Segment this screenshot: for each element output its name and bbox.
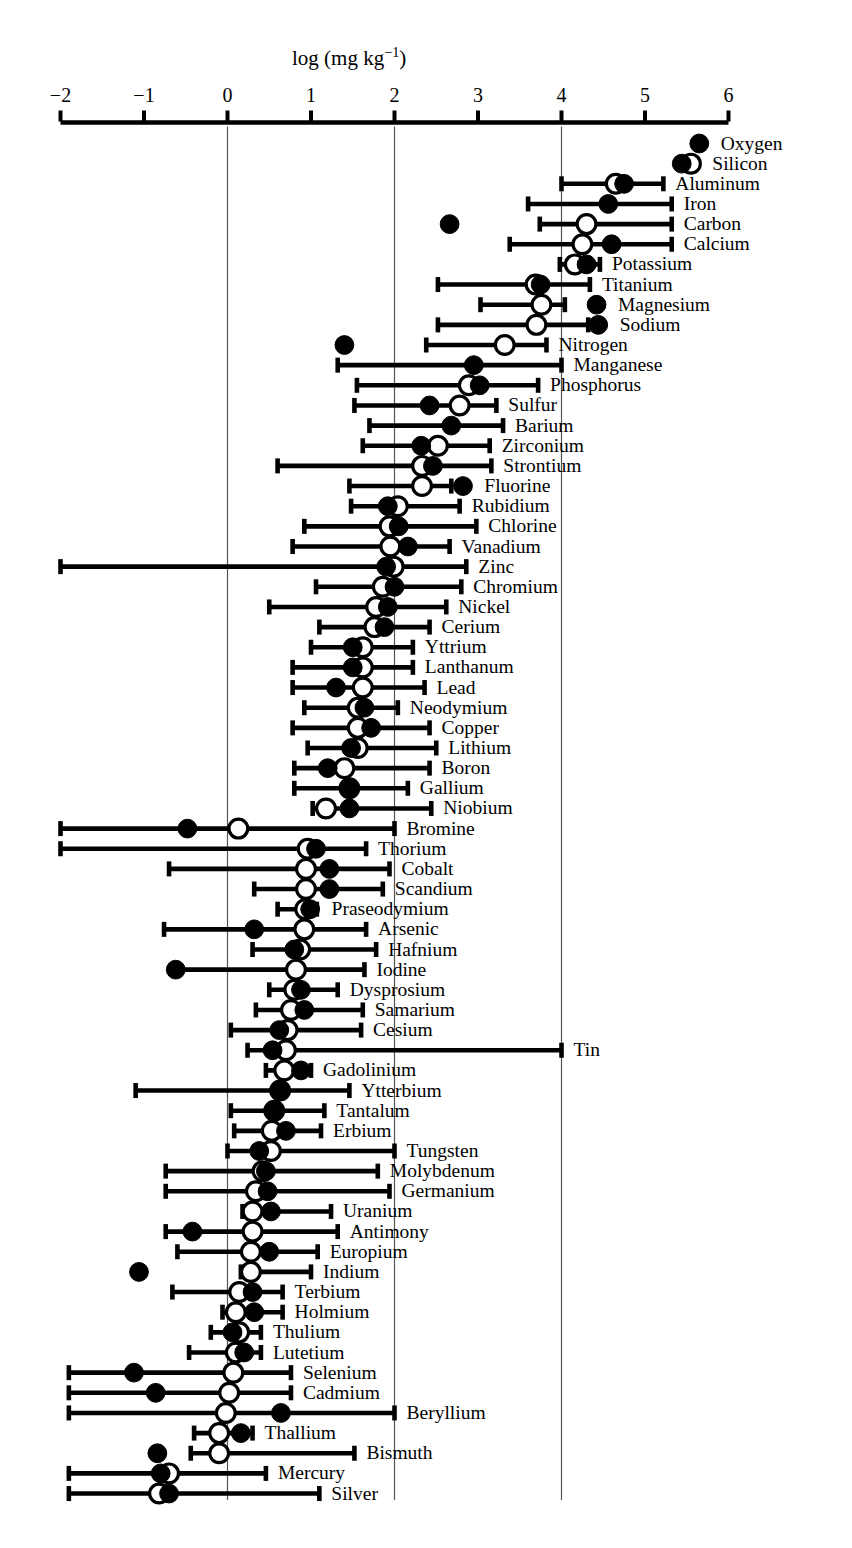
chart-canvas: log (mg kg−1) −2−10123456 OxygenSiliconA… [0,0,852,1548]
row-label-molybdenum: Molybdenum [390,1161,495,1181]
row-label-thulium: Thulium [273,1322,340,1342]
row-label-lead: Lead [437,678,476,698]
data-row [266,1061,311,1080]
data-row [278,900,320,919]
data-row [510,235,672,254]
data-row [438,275,590,294]
data-row [335,336,546,355]
row-label-boron: Boron [442,758,491,778]
data-row [294,759,429,778]
row-label-phosphorus: Phosphorus [550,375,641,395]
data-row [69,1484,320,1503]
row-label-uranium: Uranium [343,1201,412,1221]
data-row [338,356,562,375]
row-label-gadolinium: Gadolinium [323,1060,416,1080]
x-tick-label-6: 6 [709,84,749,107]
data-row [194,1424,252,1443]
data-row [253,940,377,959]
data-row [313,799,432,818]
row-label-oxygen: Oxygen [721,134,783,154]
data-row [231,1021,361,1040]
x-tick-label-minus1: −1 [124,84,164,107]
data-row [319,618,429,637]
data-row [357,376,538,395]
row-label-carbon: Carbon [684,214,741,234]
row-label-chlorine: Chlorine [488,516,556,536]
row-label-fluorine: Fluorine [484,476,550,496]
data-row [304,517,476,536]
row-label-barium: Barium [515,416,574,436]
row-label-rubidium: Rubidium [472,496,550,516]
data-row [243,1202,332,1221]
row-label-manganese: Manganese [574,355,663,375]
row-label-vanadium: Vanadium [462,537,541,557]
row-label-calcium: Calcium [684,234,750,254]
row-label-cerium: Cerium [442,617,501,637]
x-tick-label-1: 1 [291,84,331,107]
data-row [562,174,664,193]
row-label-samarium: Samarium [375,1000,455,1020]
row-label-hafnium: Hafnium [388,940,457,960]
row-label-indium: Indium [323,1262,379,1282]
data-row [166,960,364,979]
row-label-silver: Silver [331,1484,378,1504]
row-label-zirconium: Zirconium [502,436,584,456]
row-label-potassium: Potassium [612,254,692,274]
row-label-tungsten: Tungsten [407,1141,479,1161]
row-label-antimony: Antimony [350,1222,429,1242]
row-label-thallium: Thallium [265,1423,337,1443]
x-tick-label-minus2: −2 [41,84,81,107]
data-row [293,537,450,556]
data-row [293,718,430,737]
row-label-thorium: Thorium [378,839,446,859]
row-label-mercury: Mercury [278,1463,345,1483]
row-label-lanthanum: Lanthanum [425,657,514,677]
data-row [278,457,492,476]
data-row [248,1041,562,1060]
row-label-germanium: Germanium [401,1181,494,1201]
row-label-tantalum: Tantalum [336,1101,409,1121]
row-label-holmium: Holmium [295,1302,370,1322]
row-label-sulfur: Sulfur [508,395,557,415]
data-row [164,920,366,939]
x-tick-label-5: 5 [625,84,665,107]
data-row [440,215,672,234]
row-label-gallium: Gallium [420,778,484,798]
data-row [61,839,367,858]
data-row [130,1263,311,1282]
data-row [228,1142,395,1161]
data-row [438,315,608,334]
data-row [211,1323,261,1342]
row-label-ytterbium: Ytterbium [361,1081,441,1101]
data-row [560,255,600,274]
data-row [256,1001,363,1020]
row-label-praseodymium: Praseodymium [332,899,449,919]
row-label-neodymium: Neodymium [410,698,508,718]
row-label-zinc: Zinc [478,557,514,577]
row-label-selenium: Selenium [303,1363,377,1383]
row-label-cesium: Cesium [373,1020,433,1040]
row-label-nickel: Nickel [458,597,510,617]
data-row [234,1121,321,1140]
data-row [69,1404,395,1423]
data-row [148,1444,354,1463]
data-row [61,557,467,576]
row-label-scandium: Scandium [395,879,473,899]
x-axis [61,111,729,123]
data-row [222,1303,282,1322]
data-row [69,1363,291,1382]
row-label-cobalt: Cobalt [401,859,453,879]
row-label-bromine: Bromine [407,819,475,839]
row-label-silicon: Silicon [712,154,767,174]
data-row [166,1182,390,1201]
row-label-sodium: Sodium [620,315,681,335]
row-label-magnesium: Magnesium [618,295,710,315]
data-row [304,698,398,717]
row-label-europium: Europium [330,1242,408,1262]
row-label-iron: Iron [684,194,717,214]
data-row [351,497,460,516]
row-label-cadmium: Cadmium [303,1383,380,1403]
row-label-lithium: Lithium [448,738,511,758]
data-row [189,1343,261,1362]
x-tick-label-4: 4 [542,84,582,107]
